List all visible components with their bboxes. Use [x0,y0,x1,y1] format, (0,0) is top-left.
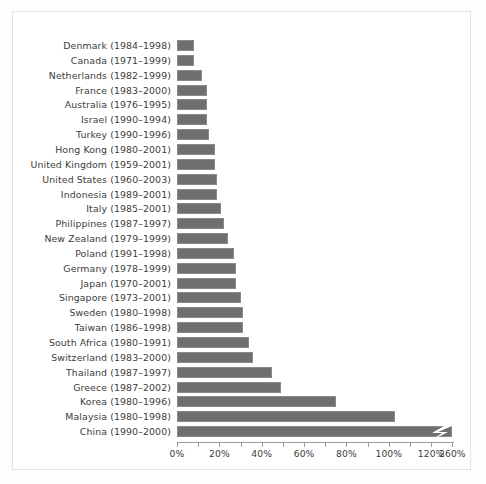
x-axis-tick [389,443,390,447]
bar-category-label: France (1983–2000) [0,83,171,98]
bar-row: Malaysia (1980–1998) [0,409,486,424]
x-axis-tick [431,443,432,447]
bar [177,114,207,125]
bar [177,292,241,303]
x-axis-tick-label: 80% [326,448,366,460]
bar-row: Germany (1978–1999) [0,261,486,276]
bar-category-label: Malaysia (1980–1998) [0,409,171,424]
bar-row: Japan (1970–2001) [0,276,486,291]
bar [177,40,194,51]
x-axis-tick [410,443,411,447]
bar-category-label: Philippines (1987–1997) [0,216,171,231]
bar-category-label: Japan (1970–2001) [0,276,171,291]
x-axis-tick-label: 100% [369,448,409,460]
bar-category-label: Australia (1976–1995) [0,97,171,112]
bar-category-label: Hong Kong (1980–2001) [0,142,171,157]
bar-category-label: Indonesia (1989–2001) [0,187,171,202]
bar-row: United Kingdom (1959–2001) [0,157,486,172]
x-axis-tick [283,443,284,447]
bar [177,337,249,348]
bar [177,411,395,422]
bar [177,248,234,259]
bar-category-label: Sweden (1980–1998) [0,305,171,320]
x-axis-tick [325,443,326,447]
bar-row: Taiwan (1986–1998) [0,320,486,335]
bar-row: Switzerland (1983–2000) [0,350,486,365]
bar-row: Canada (1971–1999) [0,53,486,68]
bar-row: China (1990–2000) [0,424,486,439]
bar-category-label: Netherlands (1982–1999) [0,68,171,83]
bar-category-label: Israel (1990–1994) [0,112,171,127]
bar-row: South Africa (1980–1991) [0,335,486,350]
x-axis-tick [262,443,263,447]
x-axis-tick [177,443,178,447]
x-axis-tick [241,443,242,447]
bar [177,70,202,81]
x-axis-tick-label: 20% [199,448,239,460]
bar-category-label: China (1990–2000) [0,424,171,439]
x-axis-tick [368,443,369,447]
bar-row: United States (1960–2003) [0,172,486,187]
bar-row: Indonesia (1989–2001) [0,187,486,202]
bar-category-label: Taiwan (1986–1998) [0,320,171,335]
bar-row: Turkey (1990–1996) [0,127,486,142]
bar-category-label: Denmark (1984–1998) [0,38,171,53]
x-axis-tick-label: 40% [242,448,282,460]
chart-figure: Denmark (1984–1998)Canada (1971–1999)Net… [0,0,486,484]
bar [177,55,194,66]
bar-row: Singapore (1973–2001) [0,290,486,305]
bar [177,307,243,318]
bar-chart-plot: Denmark (1984–1998)Canada (1971–1999)Net… [0,0,486,484]
x-axis-tick [198,443,199,447]
bar [177,322,243,333]
bar-row: Philippines (1987–1997) [0,216,486,231]
bar-row: Israel (1990–1994) [0,112,486,127]
bar [177,233,228,244]
bar-row: Poland (1991–1998) [0,246,486,261]
x-axis-tick [304,443,305,447]
bar-row: Australia (1976–1995) [0,97,486,112]
bar [177,85,207,96]
x-axis-tick-label: 260% [432,448,472,460]
bar [177,144,215,155]
bar-category-label: Italy (1985–2001) [0,201,171,216]
x-axis-tick-label: 60% [284,448,324,460]
bar [177,426,452,437]
bar [177,218,224,229]
bar [177,203,221,214]
bar [177,278,236,289]
bar-row: Denmark (1984–1998) [0,38,486,53]
x-axis-tick [452,443,453,447]
bar [177,189,217,200]
bar-category-label: New Zealand (1979–1999) [0,231,171,246]
bar [177,382,281,393]
bar-row: Italy (1985–2001) [0,201,486,216]
bar-row: Netherlands (1982–1999) [0,68,486,83]
bar-category-label: Poland (1991–1998) [0,246,171,261]
x-axis-tick [346,443,347,447]
bar [177,174,217,185]
bar [177,99,207,110]
bar [177,396,336,407]
bar-category-label: Greece (1987–2002) [0,380,171,395]
bar [177,263,236,274]
bar-category-label: United States (1960–2003) [0,172,171,187]
bar [177,367,272,378]
bar-row: Greece (1987–2002) [0,380,486,395]
bar-category-label: Turkey (1990–1996) [0,127,171,142]
bar-category-label: South Africa (1980–1991) [0,335,171,350]
bar-category-label: Singapore (1973–2001) [0,290,171,305]
x-axis-tick-label: 0% [157,448,197,460]
bar-category-label: Germany (1978–1999) [0,261,171,276]
bar-row: France (1983–2000) [0,83,486,98]
bar [177,129,209,140]
bar [177,159,215,170]
bar-row: Korea (1980–1996) [0,394,486,409]
bar-row: Sweden (1980–1998) [0,305,486,320]
bar-row: Thailand (1987–1997) [0,365,486,380]
bar-category-label: Canada (1971–1999) [0,53,171,68]
bar-category-label: United Kingdom (1959–2001) [0,157,171,172]
bar-category-label: Korea (1980–1996) [0,394,171,409]
bar-category-label: Thailand (1987–1997) [0,365,171,380]
x-axis-tick [219,443,220,447]
